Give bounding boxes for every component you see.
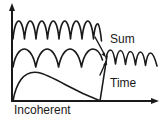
x-axis-arrow-icon bbox=[151, 98, 159, 104]
sum-label: Sum bbox=[110, 33, 135, 46]
leader-line-upper bbox=[95, 37, 105, 55]
incoherent-label: Incoherent bbox=[14, 104, 71, 117]
sum-waveform bbox=[106, 50, 157, 66]
low-frequency-wave bbox=[13, 49, 103, 67]
high-frequency-wave bbox=[13, 21, 102, 41]
envelope-curve bbox=[13, 72, 100, 101]
incoherent-sum-figure: Sum Time Incoherent bbox=[0, 0, 162, 137]
y-axis-arrow-icon bbox=[9, 3, 15, 11]
y-axis bbox=[9, 3, 15, 101]
time-axis-label: Time bbox=[110, 77, 136, 90]
